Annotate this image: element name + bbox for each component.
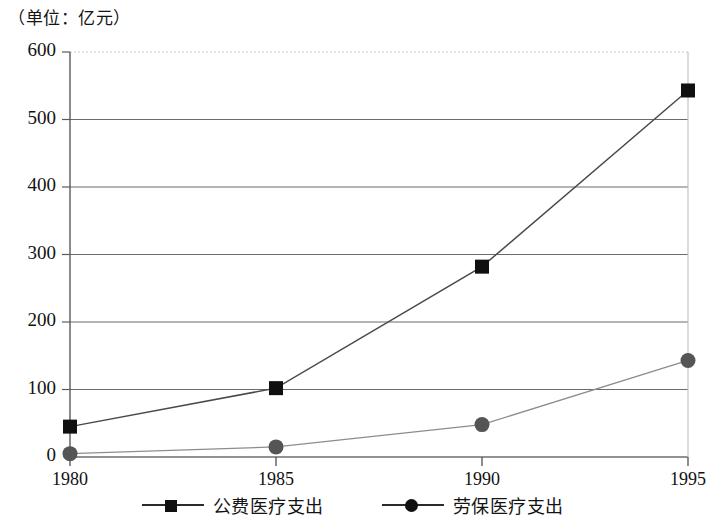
- axes-group: [62, 52, 688, 466]
- x-tick-label: 1985: [236, 469, 316, 490]
- data-point-marker: [269, 439, 284, 454]
- data-point-marker: [681, 83, 695, 97]
- y-tick-label: 400: [28, 174, 57, 196]
- legend-label: 劳保医疗支出: [453, 492, 564, 518]
- x-tick-label: 1995: [648, 469, 710, 490]
- gridlines-group: [70, 52, 688, 457]
- data-point-marker: [475, 260, 489, 274]
- data-point-marker: [269, 381, 283, 395]
- legend-item-gongfei: 公费医疗支出: [142, 492, 324, 518]
- circle-marker-icon: [382, 497, 444, 513]
- y-tick-label: 500: [28, 107, 57, 129]
- y-tick-label: 100: [28, 377, 57, 399]
- data-point-marker: [475, 417, 490, 432]
- series-line-1: [70, 360, 688, 453]
- y-tick-label: 600: [28, 39, 57, 61]
- square-marker-icon: [142, 497, 204, 513]
- legend-label: 公费医疗支出: [213, 492, 324, 518]
- y-tick-label: 0: [47, 444, 57, 466]
- series-markers-group: [63, 83, 696, 461]
- data-point-marker: [63, 446, 78, 461]
- legend-item-laobao: 劳保医疗支出: [382, 492, 564, 518]
- series-line-0: [70, 90, 688, 426]
- y-tick-label: 300: [28, 242, 57, 264]
- data-point-marker: [63, 420, 77, 434]
- x-tick-label: 1990: [442, 469, 522, 490]
- data-point-marker: [681, 353, 696, 368]
- chart-legend: 公费医疗支出 劳保医疗支出: [0, 492, 705, 518]
- series-lines-group: [70, 90, 688, 453]
- y-tick-label: 200: [28, 309, 57, 331]
- x-tick-label: 1980: [30, 469, 110, 490]
